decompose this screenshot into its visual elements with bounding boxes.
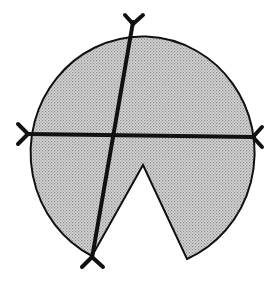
- marker-bottom-x-icon: [82, 257, 103, 267]
- marker-top-x-icon: [125, 15, 143, 24]
- circle-wedge-diagram: [0, 0, 278, 285]
- shaded-circle-with-wedge: [31, 37, 255, 259]
- marker-left-x-icon: [18, 124, 28, 144]
